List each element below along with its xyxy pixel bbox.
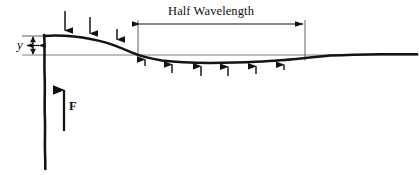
deflection-label: y xyxy=(17,38,23,51)
force-label: F xyxy=(69,100,77,113)
schematic-drawing xyxy=(0,0,419,175)
vertical-support-line xyxy=(44,35,45,169)
half-wavelength-extension-lines xyxy=(138,20,305,61)
deflection-curve xyxy=(44,35,417,62)
half-wavelength-label: Half Wavelength xyxy=(168,5,254,18)
deflection-dimension-arrow xyxy=(27,36,39,55)
figure-canvas: Half Wavelength y F xyxy=(0,0,419,175)
